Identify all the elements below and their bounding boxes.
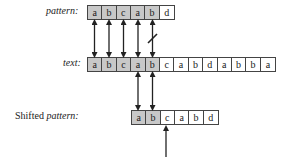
arrows-layer — [0, 0, 289, 166]
shift-arrows — [138, 74, 166, 157]
match-arrows — [95, 22, 158, 55]
